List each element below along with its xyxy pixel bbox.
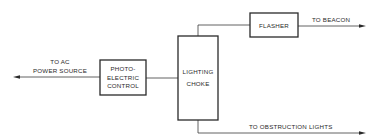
arrow-right-icon — [359, 131, 366, 134]
block-flasher: FLASHER — [250, 13, 298, 37]
arrow-right-icon — [359, 24, 366, 27]
obstruction-connection: TO OBSTRUCTION LIGHTS — [198, 120, 366, 135]
block-label-line: LIGHTING — [183, 68, 214, 75]
label-power-source: POWER SOURCE — [33, 67, 87, 74]
label-to-beacon: TO BEACON — [312, 16, 350, 23]
label-to-obstruction-lights: TO OBSTRUCTION LIGHTS — [249, 123, 333, 130]
block-label-line: CHOKE — [186, 80, 209, 87]
choke-flasher-wire — [198, 25, 250, 36]
block-label-line: ELECTRIC — [107, 74, 140, 81]
block-label-line: CONTROL — [107, 82, 139, 89]
label-to-ac: TO AC — [50, 58, 70, 65]
arrow-left-icon — [13, 75, 20, 78]
block-photoelectric-control: PHOTO- ELECTRIC CONTROL — [100, 60, 146, 95]
block-lighting-choke: LIGHTING CHOKE — [178, 36, 218, 120]
ac-source-connection: TO AC POWER SOURCE — [13, 58, 100, 79]
beacon-connection: TO BEACON — [298, 16, 366, 28]
block-label-line: FLASHER — [259, 22, 289, 29]
block-label-line: PHOTO- — [110, 65, 135, 72]
diagram-canvas: TO AC POWER SOURCE TO BEACON TO OBSTRUCT… — [0, 0, 376, 140]
